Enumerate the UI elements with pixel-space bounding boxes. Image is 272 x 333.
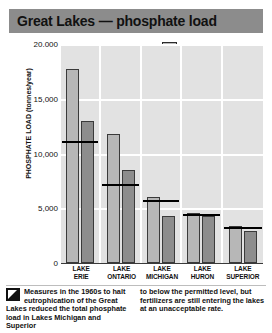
permitted-load-line: [102, 184, 138, 186]
page-title: Great Lakes — phosphate load: [9, 13, 217, 29]
permitted-load-line: [143, 200, 179, 202]
bar-1976: [107, 134, 120, 263]
permitted-load-line: [183, 214, 219, 216]
caption-right-text: to below the permitted level, but fertil…: [140, 287, 264, 313]
bar-group: [223, 44, 263, 263]
chart-panel: [223, 44, 263, 263]
bar-1976: [147, 197, 160, 263]
y-axis-tick-label: 15,000: [34, 94, 58, 103]
x-axis-category-label: LAKEHURON: [182, 265, 222, 285]
caption-divider: [6, 285, 266, 286]
x-axis-category-label: LAKEMICHIGAN: [142, 265, 182, 285]
bar-1976: [229, 226, 242, 263]
y-axis-tick-label: 10,000: [34, 149, 58, 158]
x-axis-line: [61, 263, 263, 264]
permitted-load-line: [224, 227, 262, 229]
y-axis-tick-label: 5,000: [38, 204, 58, 213]
chart-title-banner: Great Lakes — phosphate load: [9, 9, 263, 33]
caption-left-text: Measures in the 1960s to halt eutrophica…: [6, 287, 126, 330]
y-axis-ticks: 05,00010,00015,00020.000: [14, 40, 58, 263]
chart-panel: [142, 44, 182, 263]
plot-area: [61, 44, 263, 263]
bar-1982: [202, 216, 215, 263]
arrow-marker-icon: [6, 288, 20, 301]
chart-panel: [101, 44, 141, 263]
bar-1982: [244, 231, 257, 263]
bar-group: [101, 44, 139, 263]
x-axis-labels: LAKEERIELAKEONTARIOLAKEMICHIGANLAKEHURON…: [61, 265, 263, 285]
y-axis-tick-label: 20.000: [34, 40, 58, 49]
x-axis-category-label: LAKESUPERIOR: [223, 265, 263, 285]
caption-right-column: to below the permitted level, but fertil…: [140, 288, 266, 330]
caption-block: Measures in the 1960s to halt eutrophica…: [6, 288, 266, 330]
chart-panel: [182, 44, 222, 263]
chart-figure: Great Lakes — phosphate load 1976 1982 P…: [0, 0, 272, 333]
y-axis-tick-label: 0: [54, 259, 58, 268]
chart-panel: [61, 44, 101, 263]
permitted-load-line: [62, 141, 98, 143]
bar-1976: [187, 213, 200, 263]
bar-1982: [162, 216, 175, 263]
bar-group: [61, 44, 99, 263]
bar-1976: [66, 69, 79, 263]
caption-left-column: Measures in the 1960s to halt eutrophica…: [6, 288, 132, 330]
x-axis-category-label: LAKEERIE: [61, 265, 101, 285]
bar-group: [182, 44, 220, 263]
bar-group: [142, 44, 180, 263]
x-axis-category-label: LAKEONTARIO: [101, 265, 141, 285]
